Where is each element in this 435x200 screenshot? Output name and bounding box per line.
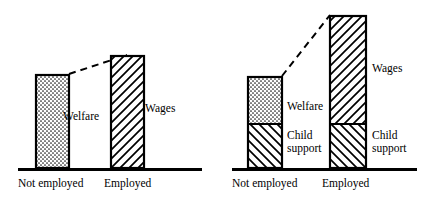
category-label-employed-right: Employed (322, 177, 370, 190)
bar-right-not-employed (248, 77, 282, 168)
segment-welfare-fill-right (248, 77, 282, 124)
annotation-wages-right: Wages (372, 62, 403, 75)
connector-dashed-right (282, 15, 330, 76)
panel-left: Welfare Wages Not employed Employed (18, 55, 202, 190)
annotation-welfare-right: Welfare (287, 100, 323, 112)
figure-container: Welfare Wages Not employed Employed (0, 0, 435, 200)
annotation-child-right-line2: support (287, 142, 322, 155)
segment-wages-fill-right (330, 16, 366, 124)
annotation-child-right-line1: Child (287, 129, 313, 141)
segment-wages-fill (111, 56, 144, 168)
panel-right: Welfare Child support Wages Child suppor… (232, 15, 417, 190)
segment-child-support-fill-right-ne (248, 124, 282, 168)
annotation-child-employed-line1: Child (372, 129, 398, 141)
annotation-welfare-left: Welfare (63, 110, 99, 122)
category-label-employed-left: Employed (104, 177, 152, 190)
bar-left-employed (111, 56, 144, 168)
annotation-wages-left: Wages (145, 102, 176, 115)
segment-child-support-fill-right-e (330, 124, 366, 168)
category-label-not-employed-right: Not employed (232, 177, 298, 190)
annotation-child-employed-line2: support (372, 142, 407, 155)
bar-chart-illustration: Welfare Wages Not employed Employed (0, 0, 435, 200)
bar-right-employed (330, 16, 366, 168)
category-label-not-employed-left: Not employed (18, 177, 84, 190)
